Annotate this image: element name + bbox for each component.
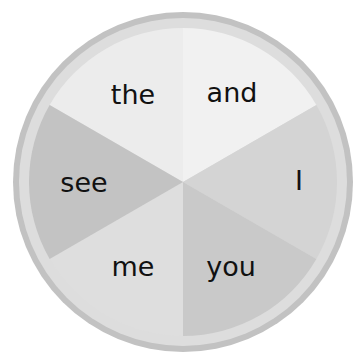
segment-label-me: me — [112, 251, 155, 282]
segment-label-see: see — [60, 167, 107, 198]
segment-label-you: you — [206, 251, 256, 282]
segment-label-i: I — [295, 165, 303, 196]
word-spinner[interactable]: the and I you me see — [0, 0, 362, 361]
segment-label-the: the — [111, 79, 155, 110]
segment-label-and: and — [207, 77, 258, 108]
spinner-wheel[interactable]: the and I you me see — [0, 0, 362, 361]
